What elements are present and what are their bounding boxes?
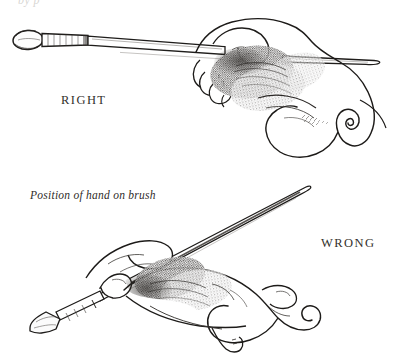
- top-brush-ferrule: [42, 34, 88, 47]
- bottom-illustration-wrong-grip: [30, 186, 321, 352]
- bottom-hand-thumb: [100, 274, 131, 298]
- bottom-brush-ferrule: [56, 291, 104, 321]
- illustration-artwork: [0, 0, 413, 361]
- top-illustration-right-grip: [12, 19, 386, 157]
- top-hand-shading: [207, 40, 330, 117]
- top-brush-bristles: [12, 29, 43, 50]
- illustration-figure: by p RIGHT Position of hand on brush WRO…: [0, 0, 413, 361]
- bottom-hand-lower-fingers: [126, 296, 246, 328]
- top-hand-thumb: [213, 28, 269, 64]
- bottom-brush-handle: [96, 186, 311, 301]
- label-wrong: WRONG: [321, 236, 375, 251]
- bottom-hand-index-finger: [86, 241, 173, 278]
- cropped-text-fragment: by p: [18, 0, 40, 8]
- top-brush-handle-tip: [282, 56, 380, 65]
- top-brush-handle: [88, 36, 225, 59]
- bottom-hand-shading: [120, 250, 235, 316]
- label-right: RIGHT: [61, 93, 106, 108]
- bottom-hand-creases: [212, 284, 247, 307]
- bottom-hand-knuckles: [262, 286, 297, 317]
- top-hand-wrist: [360, 100, 386, 128]
- top-hand-fingers: [193, 60, 231, 107]
- caption-position-of-hand-on-brush: Position of hand on brush: [30, 189, 156, 201]
- bottom-brush-bristles: [30, 312, 60, 333]
- top-hand-outline: [196, 19, 374, 157]
- bottom-hand-outline: [124, 268, 321, 343]
- top-hand-creases: [258, 95, 328, 127]
